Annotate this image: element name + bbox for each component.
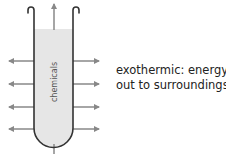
caption-line-1: exothermic: energy (116, 63, 226, 78)
right-heat-arrows (73, 61, 99, 129)
left-heat-arrows (9, 61, 34, 129)
tube-label: chemicals (50, 62, 59, 102)
caption-line-2: out to surroundings (116, 78, 226, 93)
caption: exothermic: energy out to surroundings (116, 63, 226, 93)
